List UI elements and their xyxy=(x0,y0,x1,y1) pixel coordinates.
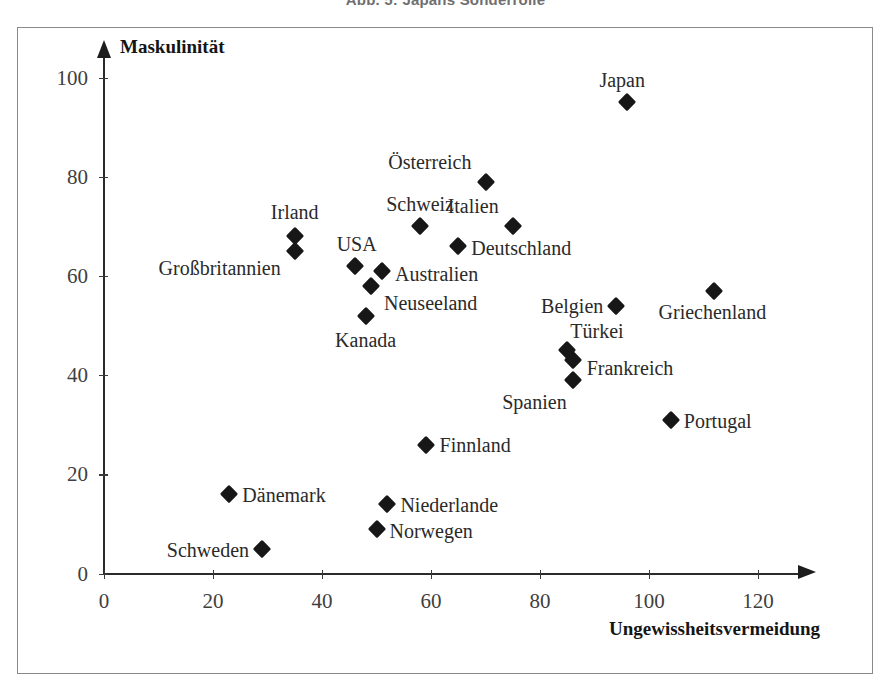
x-tick xyxy=(431,570,432,579)
y-tick-label: 40 xyxy=(36,363,88,388)
data-point[interactable] xyxy=(476,172,494,190)
x-tick xyxy=(322,570,323,579)
x-tick xyxy=(649,570,650,579)
x-tick xyxy=(213,570,214,579)
data-point-label: USA xyxy=(337,232,377,255)
data-point-label: Deutschland xyxy=(471,237,571,260)
data-point-label: Österreich xyxy=(388,150,471,173)
data-point[interactable] xyxy=(253,539,271,557)
data-point[interactable] xyxy=(411,217,429,235)
data-point-label: Frankreich xyxy=(587,357,674,380)
data-point[interactable] xyxy=(367,520,385,538)
data-point[interactable] xyxy=(356,306,374,324)
x-tick xyxy=(540,570,541,579)
x-axis-arrow-icon xyxy=(798,565,816,579)
x-tick xyxy=(758,570,759,579)
data-point-label: Norwegen xyxy=(390,519,473,542)
data-point[interactable] xyxy=(662,411,680,429)
x-tick-label: 60 xyxy=(401,589,461,614)
x-axis-line xyxy=(104,573,804,575)
y-tick xyxy=(99,276,108,277)
y-tick-label: 20 xyxy=(36,462,88,487)
data-point[interactable] xyxy=(618,93,636,111)
data-point[interactable] xyxy=(705,282,723,300)
y-tick xyxy=(99,375,108,376)
data-point[interactable] xyxy=(504,217,522,235)
data-point[interactable] xyxy=(607,296,625,314)
data-point-label: Australien xyxy=(395,262,478,285)
data-point-label: Türkei xyxy=(570,320,623,343)
y-tick xyxy=(99,177,108,178)
x-tick xyxy=(104,570,105,579)
data-point-label: Italien xyxy=(448,195,499,218)
data-point-label: Spanien xyxy=(502,391,566,414)
y-axis-line xyxy=(103,56,105,574)
data-point-label: Schweden xyxy=(167,538,249,561)
data-point[interactable] xyxy=(373,262,391,280)
data-point-label: Niederlande xyxy=(400,494,498,517)
x-tick-label: 120 xyxy=(728,589,788,614)
data-point[interactable] xyxy=(378,495,396,513)
x-tick-label: 40 xyxy=(292,589,352,614)
data-point-label: Irland xyxy=(271,201,319,224)
x-tick-label: 0 xyxy=(74,589,134,614)
y-tick-label: 60 xyxy=(36,263,88,288)
data-point-label: Neuseeland xyxy=(384,291,477,314)
data-point-label: Großbritannien xyxy=(159,257,281,280)
data-point[interactable] xyxy=(220,485,238,503)
y-tick xyxy=(99,474,108,475)
data-point-label: Kanada xyxy=(335,328,396,351)
data-point-label: Portugal xyxy=(684,409,752,432)
data-point-label: Schweiz xyxy=(386,193,454,216)
data-point-label: Finnland xyxy=(440,433,511,456)
y-tick-label: 80 xyxy=(36,164,88,189)
scatter-plot-area: Maskulinität Ungewissheitsvermeidung 020… xyxy=(0,0,891,698)
data-point[interactable] xyxy=(449,237,467,255)
y-tick-label: 0 xyxy=(36,561,88,586)
x-axis-title: Ungewissheitsvermeidung xyxy=(609,618,820,640)
y-axis-title: Maskulinität xyxy=(120,36,225,58)
data-point[interactable] xyxy=(286,242,304,260)
data-point-label: Japan xyxy=(599,69,645,92)
data-point-label: Dänemark xyxy=(242,484,325,507)
data-point-label: Belgien xyxy=(541,294,603,317)
data-point[interactable] xyxy=(416,435,434,453)
x-tick-label: 100 xyxy=(619,589,679,614)
y-axis-arrow-icon xyxy=(97,40,111,58)
x-tick-label: 20 xyxy=(183,589,243,614)
data-point[interactable] xyxy=(345,257,363,275)
x-tick-label: 80 xyxy=(510,589,570,614)
y-tick-label: 100 xyxy=(36,65,88,90)
data-point[interactable] xyxy=(563,371,581,389)
data-point[interactable] xyxy=(362,277,380,295)
data-point-label: Griechenland xyxy=(659,300,767,323)
y-tick xyxy=(99,78,108,79)
